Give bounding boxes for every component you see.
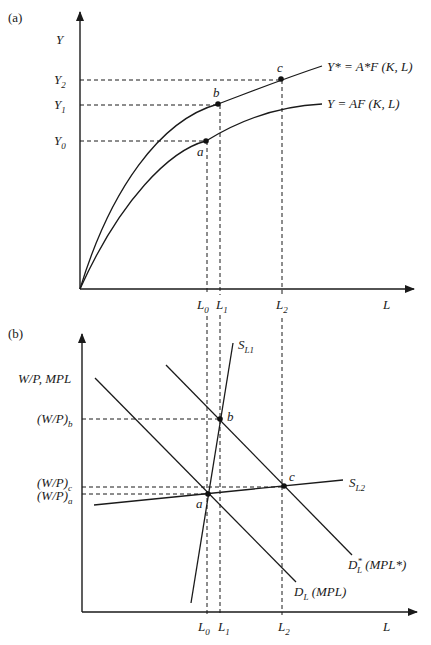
demand-label: DL (MPL)	[293, 584, 346, 602]
labor-demand-curve	[95, 378, 296, 582]
curve-lower-label: Y = AF (K, L)	[327, 96, 399, 111]
panel-a-tag: (a)	[8, 10, 22, 25]
point-a-b-label: a	[196, 496, 203, 511]
curve-upper-label: Y* = A*F (K, L)	[327, 59, 412, 74]
point-b-b-label: b	[227, 409, 234, 424]
point-a-b	[205, 491, 211, 497]
panel-b-x-axis-label: L	[382, 619, 390, 634]
supply-2-label: SL2	[349, 475, 366, 493]
production-curve-upper	[80, 66, 322, 289]
labor-supply-1-curve	[191, 343, 233, 603]
panel-b-y-axis-label: W/P, MPL	[18, 371, 71, 386]
labor-supply-2-curve	[94, 480, 343, 505]
tick-wp-b: (W/P)b	[37, 411, 73, 429]
point-a	[203, 138, 209, 144]
demand-star-label: D*L (MPL*)	[347, 556, 406, 575]
point-c	[278, 76, 284, 82]
panel-a: (a) Y L Y2 Y1 Y0 Y* = A*F (K, L) Y = AF …	[8, 10, 414, 645]
labor-market-productivity-diagram: (a) Y L Y2 Y1 Y0 Y* = A*F (K, L) Y = AF …	[0, 0, 431, 645]
point-c-b-label: c	[289, 469, 295, 484]
tick-y1: Y1	[54, 97, 66, 115]
point-b	[215, 101, 221, 107]
supply-1-label: SL1	[238, 337, 254, 355]
panel-a-y-axis-label: Y	[56, 32, 65, 47]
point-b-label: b	[213, 85, 220, 100]
point-a-label: a	[197, 144, 204, 159]
tick-y2: Y2	[54, 72, 66, 90]
panel-b-tag: (b)	[8, 326, 23, 341]
labor-demand-star-curve	[166, 365, 352, 555]
point-c-b	[281, 483, 287, 489]
tick-y0: Y0	[54, 133, 66, 151]
point-c-label: c	[277, 60, 283, 75]
production-curve-lower	[80, 104, 322, 289]
panel-a-x-axis-label: L	[382, 297, 390, 312]
tick-wp-a: (W/P)a	[37, 488, 73, 506]
point-b-b	[217, 416, 223, 422]
panel-b: (b) W/P, MPL L (W/P)b (W/P)c (W/P)a SL1 …	[8, 326, 417, 634]
